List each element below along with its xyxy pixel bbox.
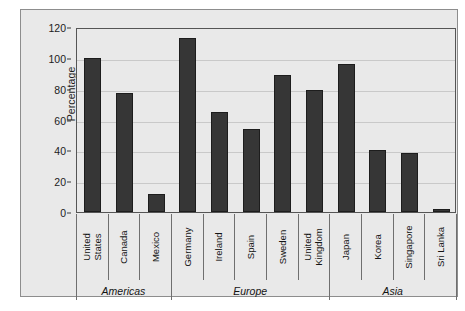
category-separator [393,214,394,280]
bar [243,129,260,212]
category-label-line: States [92,233,103,260]
bar [401,153,418,212]
y-tick-mark [67,182,71,183]
category-label: UnitedKingdom [303,228,324,266]
category-separator [456,214,457,280]
category-label-line: United [81,233,92,260]
category-label-line: Ireland [213,232,224,261]
category-label: Sweden [276,230,287,264]
category-label-cell: Ireland [203,214,235,280]
category-label-line: Germany [181,227,192,266]
plot-inner [77,29,455,212]
bar [369,150,386,212]
category-label-cell: Germany [171,214,203,280]
gridline [77,60,455,61]
bar [211,112,228,212]
category-label-cell: Japan [329,214,361,280]
category-label: Korea [371,234,382,259]
y-tick-mark [67,120,71,121]
y-tick-mark [67,213,71,214]
y-axis-tick-labels: 020406080100120 [41,28,71,213]
category-separator [234,214,235,280]
category-label: Singapore [403,225,414,268]
category-label-line: Japan [340,234,351,260]
bar [179,38,196,212]
region-separator [329,278,330,300]
category-label-cell: Sweden [266,214,298,280]
bar [148,194,165,213]
bar [274,75,291,212]
category-label-line: Spain [245,235,256,259]
bar-chart-figure: Percentage 020406080100120 UnitedStatesC… [0,0,465,311]
y-tick-mark [67,151,71,152]
category-label: Sri Lanka [435,227,446,267]
region-separator [171,278,172,300]
region-label: Europe [171,285,329,297]
category-separator [424,214,425,280]
region-separator [76,278,77,300]
category-label: Canada [118,230,129,263]
y-tick-mark [67,58,71,59]
region-label-band: AmericasEuropeAsia [76,280,456,302]
category-label: Spain [245,235,256,259]
bar [433,209,450,212]
category-label-line: Sri Lanka [435,227,446,267]
category-label-line: Canada [118,230,129,263]
y-tick-label: 60 [54,115,66,127]
y-tick-label: 0 [60,207,66,219]
category-label-cell: Sri Lanka [424,214,456,280]
gridline [77,183,455,184]
y-tick-mark [67,89,71,90]
region-separator [456,278,457,300]
gridline [77,122,455,123]
category-label: Germany [181,227,192,266]
category-separator [139,214,140,280]
category-label-line: Sweden [276,230,287,264]
category-label-cell: UnitedKingdom [298,214,330,280]
category-label-cell: Spain [234,214,266,280]
category-label-cell: Mexico [139,214,171,280]
y-tick-label: 120 [48,22,66,34]
category-separator [361,214,362,280]
gridline [77,91,455,92]
y-tick-label: 80 [54,84,66,96]
bar [306,90,323,212]
category-label-cell: Singapore [393,214,425,280]
category-separator [108,214,109,280]
category-separator [171,214,172,280]
bar [338,64,355,212]
category-separator [203,214,204,280]
category-separator [298,214,299,280]
y-tick-label: 100 [48,53,66,65]
region-label: Americas [76,285,171,297]
category-label-line: Korea [371,234,382,259]
category-label-cell: Korea [361,214,393,280]
gridline [77,152,455,153]
chart-card: Percentage 020406080100120 UnitedStatesC… [20,9,458,297]
bar [116,93,133,212]
category-label: Ireland [213,232,224,261]
category-label: Mexico [150,232,161,262]
region-label: Asia [329,285,456,297]
category-label-line: Kingdom [313,228,324,266]
category-label: Japan [340,234,351,260]
category-label-cell: Canada [108,214,140,280]
category-label: UnitedStates [81,233,102,260]
category-separator [266,214,267,280]
y-tick-label: 20 [54,176,66,188]
y-tick-label: 40 [54,145,66,157]
category-label-cell: UnitedStates [76,214,108,280]
plot-area [76,28,456,213]
bar [84,58,101,212]
category-separator [76,214,77,280]
y-tick-mark [67,28,71,29]
category-separator [329,214,330,280]
category-label-line: Singapore [403,225,414,268]
category-label-line: Mexico [150,232,161,262]
category-label-band: UnitedStatesCanadaMexicoGermanyIrelandSp… [76,214,456,280]
